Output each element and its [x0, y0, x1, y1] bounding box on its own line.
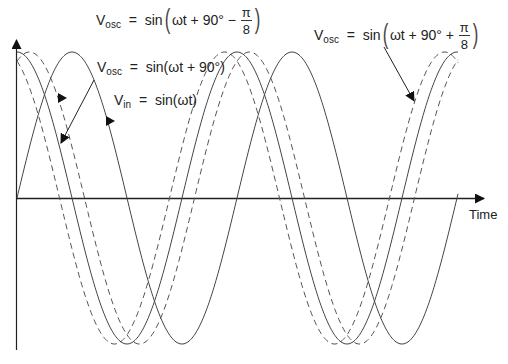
label-v: V — [97, 59, 106, 75]
vosc-plus-leader-arrow — [384, 47, 414, 101]
frac-den: 8 — [459, 36, 470, 51]
pi-over-8-fraction: π8 — [241, 6, 252, 36]
close-paren-icon: ) — [255, 5, 261, 33]
label-eq: = — [347, 27, 355, 43]
curve-arrowhead-icon — [106, 116, 115, 126]
label-fn: sin — [145, 12, 163, 28]
label-eq: = — [139, 92, 147, 108]
label-inner: ωt + 90° − — [172, 12, 236, 28]
x-axis-label: Time — [469, 207, 497, 222]
open-paren-icon: ( — [164, 5, 170, 33]
label-sub: osc — [106, 66, 122, 77]
close-paren-icon: ) — [473, 20, 479, 48]
frac-den: 8 — [241, 21, 252, 36]
label-v: V — [314, 27, 323, 43]
waveform-diagram: Vosc = sin(ωt + 90° − π8) Vosc = sin(ωt … — [0, 0, 508, 364]
label-sub: in — [123, 99, 131, 110]
label-rhs: sin(ωt + 90°) — [146, 59, 225, 75]
pi-over-8-fraction: π8 — [459, 21, 470, 51]
waveform-plot — [0, 0, 508, 364]
label-rhs: sin(ωt) — [155, 92, 197, 108]
label-fn: sin — [363, 27, 381, 43]
frac-num: π — [459, 21, 470, 36]
label-inner: ωt + 90° + — [390, 27, 454, 43]
vosc-plus-label: Vosc = sin(ωt + 90° + π8) — [314, 21, 480, 51]
vosc-minus-label: Vosc = sin(ωt + 90° − π8) — [96, 6, 262, 36]
label-eq: = — [130, 59, 138, 75]
label-v: V — [96, 12, 105, 28]
curve-arrowhead-icon — [58, 93, 67, 103]
vosc-label: Vosc = sin(ωt + 90°) — [97, 60, 225, 74]
label-sub: osc — [105, 19, 121, 30]
label-v: V — [114, 92, 123, 108]
frac-num: π — [241, 6, 252, 21]
label-eq: = — [129, 12, 137, 28]
vin-label: Vin = sin(ωt) — [114, 93, 197, 107]
label-sub: osc — [323, 34, 339, 45]
vosc-leader-arrow — [61, 80, 94, 143]
open-paren-icon: ( — [382, 20, 388, 48]
